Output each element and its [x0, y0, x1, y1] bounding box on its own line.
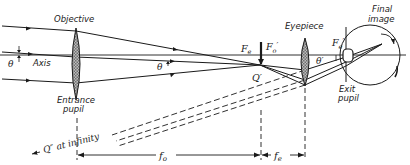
exit-pupil-label-2: pupil — [337, 93, 360, 103]
fo-dimension-label: fo — [158, 150, 167, 163]
objective-lens — [72, 28, 80, 100]
axis-label: Axis — [32, 58, 51, 68]
q-double-prime-label: Q″ at infinity — [42, 131, 101, 155]
final-image-pointer — [381, 34, 394, 44]
q-prime-label: Q′ — [252, 72, 263, 83]
incoming-rays — [2, 26, 76, 83]
reference-lines — [77, 88, 305, 160]
final-image-label: Final — [372, 4, 393, 14]
theta-prime-label: θ′ — [316, 56, 323, 66]
fe-dimension-label: fe — [273, 150, 282, 163]
ray-arrow-icon — [26, 27, 31, 31]
theta-left-label: θ — [8, 59, 14, 69]
objective-label: Objective — [54, 14, 94, 24]
fo-prime-label: Fo′ — [265, 40, 279, 55]
eyepiece-label: Eyepiece — [285, 21, 324, 31]
focal-plane-marker — [258, 42, 264, 65]
fe-prime-label: Fe′ — [331, 36, 344, 51]
entrance-pupil-label-2: pupil — [62, 104, 85, 114]
fe-label: Fe — [240, 43, 252, 56]
exit-pupil-marker — [343, 49, 353, 62]
dimension-lines — [32, 152, 304, 158]
converging-rays — [76, 31, 260, 83]
telescope-diagram: Objective Entrance pupil Axis θ θ Fe Fo′… — [0, 0, 410, 165]
q-double-prime-arrow — [32, 152, 40, 154]
final-image-label-2: image — [368, 14, 394, 24]
ray-arrow-icon — [26, 79, 31, 83]
virtual-rays — [112, 70, 305, 146]
theta-mid-label: θ — [157, 62, 163, 72]
